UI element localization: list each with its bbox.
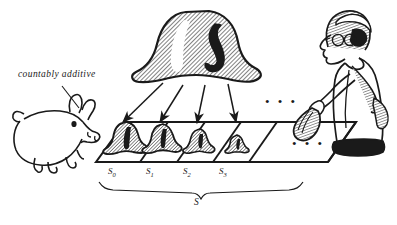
ellipsis-above-table: • • • bbox=[265, 95, 298, 108]
annotation-pointer-line bbox=[62, 86, 79, 108]
pig-eye bbox=[71, 121, 76, 127]
person-coat-placket bbox=[345, 70, 349, 128]
cell-label-s3: S3 bbox=[219, 167, 227, 178]
arrow-to-s1 bbox=[160, 85, 183, 122]
illustration-artwork bbox=[0, 0, 397, 225]
big-bell-shape bbox=[132, 11, 261, 82]
figure-canvas: countably additive S0 S1 S2 S3 S • • • •… bbox=[0, 0, 397, 225]
person-pouch bbox=[373, 98, 388, 129]
brace-label-s: S bbox=[194, 198, 199, 208]
cell-label-s0: S0 bbox=[108, 167, 116, 178]
cell-label-s1: S1 bbox=[146, 167, 154, 178]
cell-label-s2: S2 bbox=[183, 167, 191, 178]
pig-ear-right bbox=[82, 100, 95, 120]
arrow-to-s3 bbox=[228, 84, 236, 122]
arrow-to-s2 bbox=[197, 85, 205, 123]
distribution-arrows bbox=[123, 83, 236, 123]
ellipsis-on-table: • • • bbox=[292, 137, 325, 150]
person-base-shadow bbox=[333, 139, 385, 156]
big-bell-outline bbox=[132, 11, 261, 82]
pig-figure bbox=[13, 94, 100, 173]
annotation-countably-additive: countably additive bbox=[18, 70, 96, 80]
person-hair-side bbox=[350, 29, 367, 46]
bottom-brace bbox=[99, 182, 303, 199]
arrow-to-s0 bbox=[123, 83, 163, 122]
